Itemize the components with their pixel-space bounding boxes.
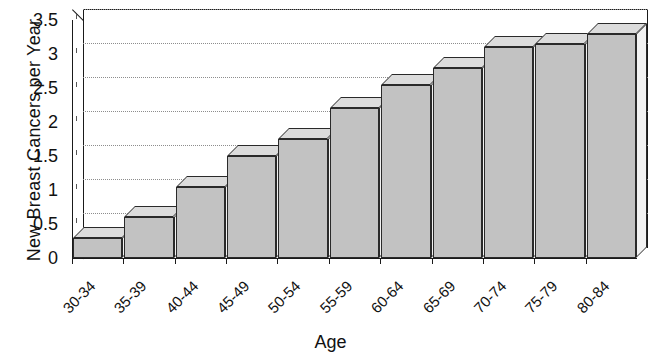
x-axis-tick (586, 259, 587, 264)
x-axis-tick (277, 259, 278, 264)
x-axis-title: Age (0, 332, 661, 352)
x-axis-line (72, 258, 637, 259)
bar-front-face (484, 47, 533, 258)
bar (176, 176, 225, 258)
bar-front-face (278, 139, 327, 258)
y-axis-tick (76, 48, 77, 53)
y-axis-tick (76, 150, 77, 155)
bar-front-face (535, 44, 584, 258)
plot-frame-depth-topleft (72, 9, 84, 21)
x-axis-tick (226, 259, 227, 264)
bar (484, 36, 533, 258)
bar (587, 23, 636, 258)
y-axis-tick (76, 14, 77, 19)
bar-side-face (636, 23, 647, 258)
y-axis-tick (76, 218, 77, 223)
bar-front-face (176, 187, 225, 258)
gridline (83, 9, 648, 10)
x-axis-tick (175, 259, 176, 264)
bar (124, 206, 173, 258)
x-axis-tick (380, 259, 381, 264)
y-axis-tick (76, 184, 77, 189)
y-axis-line (72, 20, 73, 259)
bar (330, 97, 379, 258)
bar-chart: New Breast Cancers per Year 00.511.522.5… (0, 0, 661, 359)
bar-front-face (381, 85, 430, 258)
bar (227, 145, 276, 258)
bar (73, 227, 122, 258)
x-axis-tick (432, 259, 433, 264)
bar (433, 57, 482, 258)
y-axis-tick (76, 82, 77, 87)
bar-front-face (227, 156, 276, 258)
bar-front-face (330, 108, 379, 258)
bar (278, 128, 327, 258)
plot-frame-back-right (647, 9, 648, 247)
bar-front-face (587, 34, 636, 258)
y-axis-tick (76, 116, 77, 121)
bar (535, 33, 584, 258)
x-axis-tick (329, 259, 330, 264)
plot-frame-back-left (83, 9, 84, 247)
bar-front-face (124, 217, 173, 258)
bar-front-face (73, 238, 122, 258)
bar-top-face (587, 23, 647, 34)
x-axis-tick (72, 259, 73, 264)
bar-front-face (433, 68, 482, 258)
x-axis-tick (483, 259, 484, 264)
x-axis-tick (534, 259, 535, 264)
bar (381, 74, 430, 258)
x-axis-tick (123, 259, 124, 264)
